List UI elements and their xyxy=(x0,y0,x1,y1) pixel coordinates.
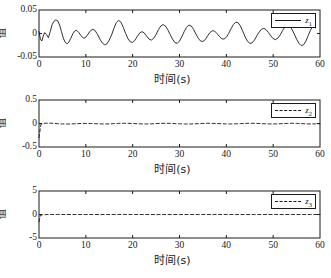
x-tick-label: 40 xyxy=(212,240,240,250)
x-tick-label: 30 xyxy=(166,59,194,69)
x-tick-label: 60 xyxy=(306,59,331,69)
x-tick-label: 60 xyxy=(306,149,331,159)
legend-label: z3 xyxy=(305,196,312,208)
x-tick-label: 50 xyxy=(259,149,287,159)
x-tick-label: 60 xyxy=(306,240,331,250)
x-tick-label: 30 xyxy=(166,240,194,250)
x-tick-label: 0 xyxy=(25,59,53,69)
subplot-3: 值 时间(s) -5050102030405060z3 xyxy=(0,181,331,271)
y-tick-label: 0 xyxy=(32,209,37,219)
x-tick-label: 10 xyxy=(72,240,100,250)
legend-z2[interactable]: z2 xyxy=(271,103,316,118)
x-tick-label: 30 xyxy=(166,149,194,159)
x-tick-label: 50 xyxy=(259,59,287,69)
legend-line-sample-icon xyxy=(275,201,301,203)
x-tick-label: 10 xyxy=(72,59,100,69)
subplot-2-xlabel: 时间(s) xyxy=(0,160,331,176)
x-tick-label: 40 xyxy=(212,149,240,159)
y-tick-label: 0 xyxy=(32,28,37,38)
x-tick-label: 20 xyxy=(119,149,147,159)
y-tick-label: 0.5 xyxy=(25,94,37,104)
legend-line-sample-icon xyxy=(275,20,301,22)
x-tick-label: 0 xyxy=(25,240,53,250)
y-tick-label: 0 xyxy=(32,118,37,128)
subplot-1-xlabel: 时间(s) xyxy=(0,70,331,86)
x-tick-label: 40 xyxy=(212,59,240,69)
legend-line-sample-icon xyxy=(275,110,301,112)
x-tick-label: 20 xyxy=(119,59,147,69)
x-tick-label: 0 xyxy=(25,149,53,159)
legend-label: z2 xyxy=(305,105,312,117)
subplot-3-xlabel: 时间(s) xyxy=(0,251,331,267)
x-tick-label: 50 xyxy=(259,240,287,250)
legend-label: z1 xyxy=(305,15,312,27)
y-tick-label: 0.05 xyxy=(20,4,37,14)
x-tick-label: 10 xyxy=(72,149,100,159)
figure-canvas: 值 时间(s) -0.0500.050102030405060z1 值 时间(s… xyxy=(0,0,331,278)
series-line-z2 xyxy=(39,123,320,137)
y-tick-label: 5 xyxy=(32,185,37,195)
legend-z3[interactable]: z3 xyxy=(271,194,316,209)
subplot-2: 值 时间(s) -0.500.50102030405060z2 xyxy=(0,90,331,180)
x-tick-label: 20 xyxy=(119,240,147,250)
legend-z1[interactable]: z1 xyxy=(271,13,316,28)
subplot-1: 值 时间(s) -0.0500.050102030405060z1 xyxy=(0,0,331,90)
series-line-z3 xyxy=(39,214,320,221)
